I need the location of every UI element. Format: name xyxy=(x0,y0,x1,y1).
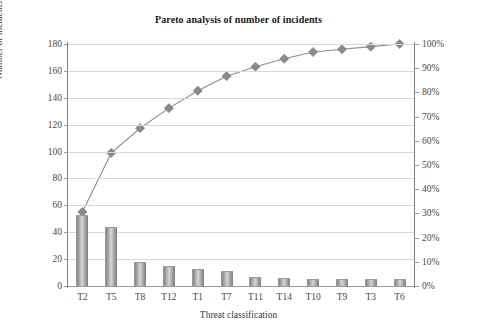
secondary-y-axis-tick-label: 0% xyxy=(422,281,462,291)
bar-t11 xyxy=(249,277,261,286)
bar-t14 xyxy=(278,278,290,286)
cumulative-marker-t12 xyxy=(164,104,173,113)
gridline xyxy=(68,178,414,179)
secondary-y-axis-tick xyxy=(414,117,419,118)
y-axis-tick xyxy=(64,71,68,72)
x-axis-tick-label-t7: T7 xyxy=(212,292,241,303)
y-axis-tick xyxy=(64,178,68,179)
x-axis-tick-label-t12: T12 xyxy=(155,292,184,303)
y-axis-tick-label: 40 xyxy=(28,227,62,237)
cumulative-marker-t10 xyxy=(308,47,317,56)
y-axis-tick xyxy=(64,125,68,126)
x-axis-tick-label-t8: T8 xyxy=(126,292,155,303)
secondary-y-axis-tick xyxy=(414,141,419,142)
y-axis-tick-label: 160 xyxy=(28,66,62,76)
x-axis-tick-label-t14: T14 xyxy=(270,292,299,303)
y-axis-title: Number of incidents xyxy=(0,0,4,105)
y-axis-tick-label: 100 xyxy=(28,147,62,157)
x-axis-tick-label-t1: T1 xyxy=(183,292,212,303)
cumulative-marker-t7 xyxy=(222,72,231,81)
y-axis-tick xyxy=(64,259,68,260)
bar-t5 xyxy=(105,227,117,286)
x-axis-tick-label-t11: T11 xyxy=(241,292,270,303)
secondary-y-axis-tick xyxy=(414,189,419,190)
bar-t10 xyxy=(307,279,319,286)
secondary-y-axis-tick xyxy=(414,68,419,69)
bar-t2 xyxy=(76,215,88,286)
plot-area xyxy=(68,44,414,286)
cumulative-marker-t9 xyxy=(337,45,346,54)
secondary-y-axis-tick-label: 70% xyxy=(422,112,462,122)
bar-t6 xyxy=(394,279,406,286)
bar-t7 xyxy=(221,271,233,286)
secondary-y-axis-tick-label: 10% xyxy=(422,257,462,267)
x-axis-tick-label-t5: T5 xyxy=(97,292,126,303)
y-axis-tick-label: 120 xyxy=(28,120,62,130)
y-axis-tick-label: 0 xyxy=(28,281,62,291)
gridline xyxy=(68,205,414,206)
x-axis-title: Threat classification xyxy=(0,310,477,320)
gridline xyxy=(68,98,414,99)
gridline xyxy=(68,44,414,45)
secondary-y-axis-tick xyxy=(414,262,419,263)
secondary-y-axis-tick xyxy=(414,92,419,93)
x-axis-tick-label-t2: T2 xyxy=(68,292,97,303)
y-axis-tick-label: 180 xyxy=(28,39,62,49)
bar-t12 xyxy=(163,266,175,286)
y-axis-tick-label: 60 xyxy=(28,200,62,210)
bar-t1 xyxy=(192,269,204,286)
gridline xyxy=(68,152,414,153)
x-axis-tick-label-t9: T9 xyxy=(328,292,357,303)
cumulative-line-series xyxy=(68,44,414,286)
bar-t8 xyxy=(134,262,146,286)
secondary-y-axis-tick xyxy=(414,165,419,166)
x-axis-tick-label-t10: T10 xyxy=(299,292,328,303)
y-axis-tick-label: 140 xyxy=(28,93,62,103)
y-axis-tick xyxy=(64,152,68,153)
x-axis-tick-label-t3: T3 xyxy=(356,292,385,303)
y-axis-tick xyxy=(64,232,68,233)
secondary-y-axis-tick xyxy=(414,213,419,214)
pareto-chart: Pareto analysis of number of incidents N… xyxy=(0,0,477,331)
gridline xyxy=(68,232,414,233)
secondary-y-axis-tick xyxy=(414,238,419,239)
secondary-y-axis-tick xyxy=(414,286,419,287)
secondary-y-axis-tick-label: 60% xyxy=(422,136,462,146)
secondary-y-axis-tick xyxy=(414,44,419,45)
y-axis-tick-label: 20 xyxy=(28,254,62,264)
bar-t9 xyxy=(336,279,348,286)
secondary-y-axis-tick-label: 20% xyxy=(422,233,462,243)
cumulative-line-path xyxy=(82,44,399,212)
cumulative-marker-t14 xyxy=(280,54,289,63)
secondary-y-axis-tick-label: 100% xyxy=(422,39,462,49)
secondary-y-axis-tick-label: 40% xyxy=(422,184,462,194)
x-axis-line xyxy=(68,286,415,287)
y-axis-tick xyxy=(64,286,68,287)
secondary-y-axis-tick-label: 80% xyxy=(422,87,462,97)
gridline xyxy=(68,71,414,72)
gridline xyxy=(68,259,414,260)
gridline xyxy=(68,125,414,126)
y-axis-tick xyxy=(64,44,68,45)
chart-title: Pareto analysis of number of incidents xyxy=(0,14,477,25)
bar-t3 xyxy=(365,279,377,286)
cumulative-marker-t1 xyxy=(193,86,202,95)
x-axis-tick-label-t6: T6 xyxy=(385,292,414,303)
y-axis-tick xyxy=(64,205,68,206)
secondary-y-axis-tick-label: 50% xyxy=(422,160,462,170)
secondary-y-axis-tick-label: 30% xyxy=(422,208,462,218)
y-axis-tick-label: 80 xyxy=(28,173,62,183)
secondary-y-axis-tick-label: 90% xyxy=(422,63,462,73)
y-axis-tick xyxy=(64,98,68,99)
